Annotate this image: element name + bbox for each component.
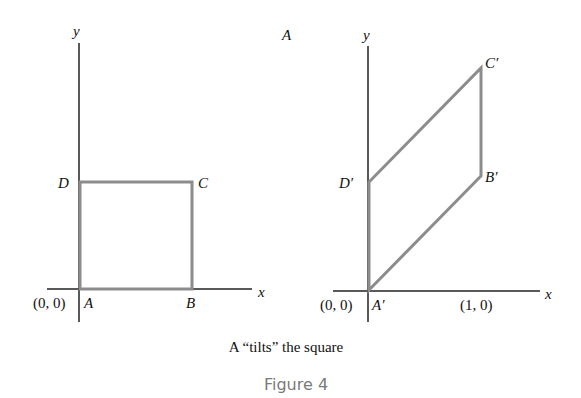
- right-x-label: x: [544, 286, 552, 302]
- vertex-d-prime-label: D′: [338, 175, 354, 191]
- left-diagram: y x (0, 0) A B C D: [33, 23, 265, 322]
- vertex-d-label: D: [57, 175, 69, 191]
- vertex-a-label: A: [83, 295, 94, 311]
- right-diagram: y x (0, 0) (1, 0) A′ B′ C′ D′: [320, 27, 552, 322]
- unit-square: [80, 182, 192, 289]
- vertex-c-label: C: [198, 175, 209, 191]
- left-y-label: y: [71, 23, 80, 39]
- figure-canvas: y x (0, 0) A B C D A y x (0, 0) (1, 0) A…: [0, 0, 581, 398]
- left-origin-label: (0, 0): [33, 295, 66, 312]
- figure-number: Figure 4: [264, 375, 328, 394]
- right-origin-label: (0, 0): [320, 297, 353, 314]
- left-x-label: x: [257, 284, 265, 300]
- vertex-b-prime-label: B′: [485, 169, 498, 185]
- vertex-c-prime-label: C′: [485, 55, 499, 71]
- vertex-a-prime-label: A′: [371, 297, 385, 313]
- tilted-parallelogram: [369, 68, 481, 290]
- matrix-label: A: [281, 27, 292, 43]
- unit-point-label: (1, 0): [460, 297, 493, 314]
- vertex-b-label: B: [186, 295, 195, 311]
- figure-caption: A “tilts” the square: [229, 339, 344, 355]
- right-y-label: y: [361, 27, 370, 43]
